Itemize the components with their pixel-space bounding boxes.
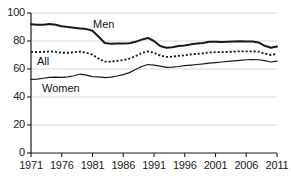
- x-tick-marks: [31, 153, 277, 157]
- x-tick-label-2006: 2006: [230, 159, 262, 171]
- x-tick-label-1981: 1981: [77, 159, 109, 171]
- series-label-men: Men: [93, 18, 114, 30]
- y-tick-label-100: 100: [7, 6, 25, 18]
- series-line-men: [31, 24, 277, 48]
- series-label-all: All: [37, 55, 49, 67]
- x-tick-label-2001: 2001: [200, 159, 232, 171]
- employment-rate-line-chart: 020406080100 197119761981198619911996200…: [0, 0, 291, 179]
- y-tick-label-40: 40: [13, 90, 25, 102]
- series-line-women: [31, 59, 277, 79]
- x-tick-label-1976: 1976: [46, 159, 78, 171]
- x-tick-label-2011: 2011: [261, 159, 291, 171]
- y-tick-label-60: 60: [13, 62, 25, 74]
- x-tick-label-1971: 1971: [15, 159, 47, 171]
- x-tick-label-1986: 1986: [107, 159, 139, 171]
- series-label-women: Women: [42, 82, 80, 94]
- x-tick-label-1996: 1996: [169, 159, 201, 171]
- gridlines: [31, 13, 277, 125]
- series-lines: [31, 24, 277, 79]
- y-tick-label-20: 20: [13, 118, 25, 130]
- x-tick-label-1991: 1991: [138, 159, 170, 171]
- y-tick-label-80: 80: [13, 34, 25, 46]
- y-tick-label-0: 0: [19, 146, 25, 158]
